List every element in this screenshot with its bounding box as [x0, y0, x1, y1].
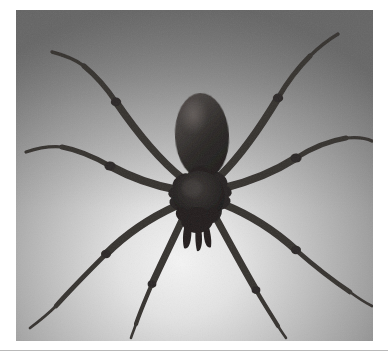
- page-root: [0, 0, 388, 358]
- page-separator-rule: [0, 350, 388, 351]
- spider-photo-canvas: [16, 10, 373, 341]
- photo-grain-overlay: [16, 10, 373, 341]
- spider-photograph: [16, 10, 373, 341]
- caption-area: [0, 352, 388, 358]
